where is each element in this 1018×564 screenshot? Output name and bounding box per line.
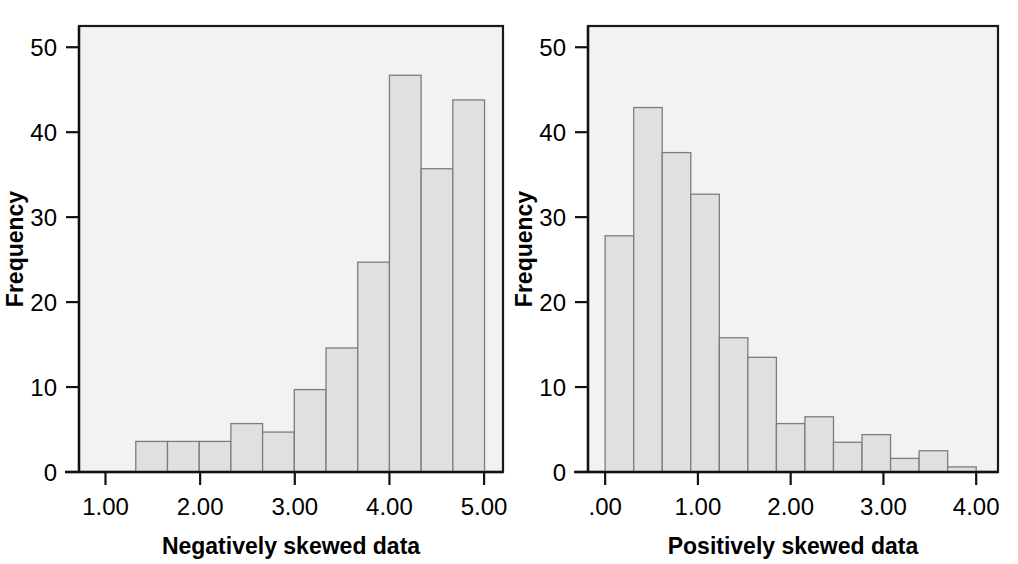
histogram-bar — [919, 451, 948, 472]
x-tick-label: 3.00 — [271, 493, 318, 520]
histogram-bar — [805, 417, 834, 472]
histogram-bar — [326, 348, 358, 472]
histogram-bar — [862, 435, 891, 472]
x-axis: 1.002.003.004.005.00 — [82, 472, 507, 520]
y-tick-label: 30 — [30, 204, 57, 231]
x-tick-label: 4.00 — [366, 493, 413, 520]
y-tick-label: 0 — [553, 459, 566, 486]
x-tick-label: 1.00 — [82, 493, 129, 520]
y-tick-label: 50 — [30, 34, 57, 61]
y-tick-label: 40 — [539, 119, 566, 146]
x-axis-title: Positively skewed data — [668, 533, 919, 559]
histogram-bar — [358, 262, 390, 472]
chart-panel-positively-skewed: 01020304050.001.002.003.004.00Positively… — [509, 0, 1018, 564]
y-tick-label: 20 — [539, 289, 566, 316]
histogram-bar — [263, 432, 295, 472]
histogram-bar — [691, 194, 720, 472]
histogram-bar — [605, 236, 634, 472]
histogram-bar — [453, 100, 485, 472]
histogram-bar — [719, 338, 748, 472]
x-tick-label: 4.00 — [953, 493, 1000, 520]
y-tick-label: 0 — [44, 459, 57, 486]
x-tick-label: 5.00 — [461, 493, 508, 520]
y-axis-title: Frequency — [511, 191, 537, 308]
histogram-bar — [421, 169, 453, 472]
two-panel-histogram-figure: 010203040501.002.003.004.005.00Negativel… — [0, 0, 1018, 564]
histogram-bar — [231, 424, 263, 472]
y-tick-label: 10 — [539, 374, 566, 401]
histogram-bar — [662, 153, 691, 472]
x-axis: .001.002.003.004.00 — [588, 472, 999, 520]
negatively-skewed-histogram-svg: 010203040501.002.003.004.005.00Negativel… — [0, 0, 509, 564]
y-tick-label: 20 — [30, 289, 57, 316]
histogram-bar — [891, 458, 920, 472]
x-tick-label: 2.00 — [767, 493, 814, 520]
histogram-bar — [167, 441, 199, 472]
histogram-bar — [748, 357, 777, 472]
histogram-bar — [136, 441, 168, 472]
y-tick-label: 30 — [539, 204, 566, 231]
chart-panel-negatively-skewed: 010203040501.002.003.004.005.00Negativel… — [0, 0, 509, 564]
histogram-bar — [294, 390, 326, 472]
y-axis-title: Frequency — [2, 191, 28, 308]
x-tick-label: 3.00 — [860, 493, 907, 520]
histogram-bar — [199, 441, 231, 472]
histogram-bar — [776, 424, 805, 472]
x-tick-label: .00 — [588, 493, 621, 520]
x-tick-label: 2.00 — [177, 493, 224, 520]
y-axis: 01020304050 — [30, 34, 79, 486]
y-tick-label: 50 — [539, 34, 566, 61]
histogram-bar — [389, 75, 421, 472]
x-axis-title: Negatively skewed data — [162, 533, 420, 559]
y-axis: 01020304050 — [539, 34, 588, 486]
positively-skewed-histogram-svg: 01020304050.001.002.003.004.00Positively… — [509, 0, 1018, 564]
y-tick-label: 10 — [30, 374, 57, 401]
histogram-bar — [634, 108, 663, 472]
y-tick-label: 40 — [30, 119, 57, 146]
histogram-bar — [833, 442, 862, 472]
x-tick-label: 1.00 — [675, 493, 722, 520]
